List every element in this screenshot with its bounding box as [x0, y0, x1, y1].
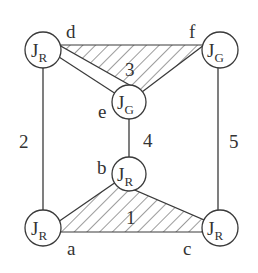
- node-label-c: c: [183, 238, 191, 259]
- link-label-2: 2: [19, 131, 29, 152]
- node-label-d: d: [66, 21, 76, 42]
- link-label-4: 4: [143, 130, 153, 151]
- link-label-1: 1: [126, 207, 136, 228]
- mechanism-diagram: JR JG JG JR JR JR d f e b a c 1 2 3 4 5: [0, 0, 258, 273]
- joint-f: JG: [202, 32, 238, 68]
- joint-d: JR: [25, 32, 61, 68]
- node-label-e: e: [98, 101, 106, 122]
- node-label-b: b: [97, 157, 107, 178]
- node-label-f: f: [189, 21, 196, 42]
- joint-a: JR: [25, 210, 61, 246]
- joint-b: JR: [112, 157, 146, 191]
- node-label-a: a: [67, 238, 76, 259]
- joint-c: JR: [202, 210, 238, 246]
- link-label-5: 5: [229, 131, 239, 152]
- link-label-3: 3: [125, 59, 135, 80]
- joint-e: JG: [112, 85, 146, 119]
